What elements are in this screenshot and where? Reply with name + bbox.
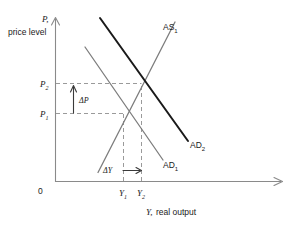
y-tick-labels-group: P2 P1 xyxy=(39,79,49,121)
ad-as-chart-svg: P, price level Y, real output 0 P2 P1 Y1… xyxy=(0,0,307,229)
curves-group xyxy=(85,18,188,173)
curve-labels-group: AS1 AD1 AD2 xyxy=(163,22,206,172)
economics-diagram: P, price level Y, real output 0 P2 P1 Y1… xyxy=(0,0,307,229)
curve-label-ad2-sub: 2 xyxy=(202,146,206,152)
x-tick-label-y1: Y1 xyxy=(119,188,127,200)
origin-label: 0 xyxy=(38,186,43,196)
guide-lines-group xyxy=(56,84,142,182)
delta-p-label: ΔP xyxy=(78,96,89,105)
y-tick-p2-sub: 2 xyxy=(46,85,49,91)
x-tick-labels-group: Y1 Y2 xyxy=(119,188,145,200)
curve-label-ad1-sub: 1 xyxy=(175,166,179,172)
curve-label-as1: AS1 xyxy=(163,22,178,34)
x-tick-label-y2: Y2 xyxy=(137,188,145,200)
curve-label-as1-base: AS xyxy=(163,22,175,32)
delta-labels-group: ΔP ΔY xyxy=(78,96,114,175)
x-tick-y1-sub: 1 xyxy=(124,194,127,200)
curve-label-as1-sub: 1 xyxy=(174,28,178,34)
y-axis-label: price level xyxy=(8,27,46,37)
curve-label-ad1-base: AD xyxy=(163,160,175,170)
y-axis-symbol: P, xyxy=(41,14,49,24)
x-axis-symbol: Y, xyxy=(146,207,152,217)
curve-as1 xyxy=(98,22,175,173)
x-tick-y2-sub: 2 xyxy=(142,194,145,200)
y-tick-p1-sub: 1 xyxy=(46,115,49,121)
axis-titles-group: P, price level Y, real output 0 xyxy=(8,14,197,217)
curve-label-ad2: AD2 xyxy=(190,140,206,152)
x-axis-label: real output xyxy=(156,207,197,217)
y-tick-label-p2: P2 xyxy=(39,79,49,91)
delta-y-label: ΔY xyxy=(102,166,114,175)
curve-ad2 xyxy=(100,18,188,141)
curve-label-ad1: AD1 xyxy=(163,160,179,172)
delta-y-arrow-group xyxy=(123,168,142,174)
delta-p-arrow-group xyxy=(71,86,77,114)
curve-label-ad2-base: AD xyxy=(190,140,202,150)
y-tick-label-p1: P1 xyxy=(39,109,49,121)
